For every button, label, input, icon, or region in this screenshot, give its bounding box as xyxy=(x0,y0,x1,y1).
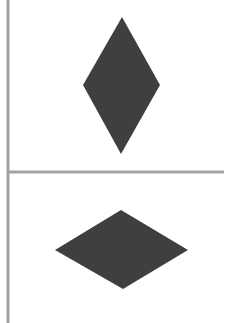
diagram-canvas xyxy=(0,0,230,323)
horizontal-diamond-shape xyxy=(55,210,188,289)
bottom-panel xyxy=(55,210,188,289)
diagram-svg xyxy=(0,0,230,323)
top-panel xyxy=(83,17,160,154)
vertical-diamond-shape xyxy=(83,17,160,154)
